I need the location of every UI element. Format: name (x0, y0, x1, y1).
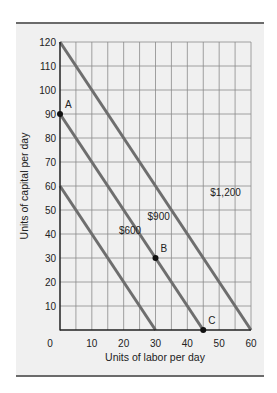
y-tick-label: 50 (45, 205, 57, 216)
x-axis-label: Units of labor per day (105, 351, 206, 363)
point-label: C (208, 315, 215, 326)
y-tick-label: 40 (45, 229, 57, 240)
point-label: A (65, 99, 72, 110)
y-tick-label: 110 (40, 61, 56, 72)
x-tick-label: 40 (182, 338, 194, 349)
line-label: $600 (119, 225, 142, 236)
y-tick-label: 30 (45, 253, 57, 264)
x-tick-label: 60 (245, 338, 257, 349)
y-tick-label: 120 (39, 37, 56, 48)
budget-line (60, 114, 203, 330)
point-marker (153, 255, 159, 261)
budget-line-chart: 0102030405060102030405060708090100110120… (0, 0, 277, 393)
point-marker (200, 327, 206, 333)
y-axis-label: Units of capital per day (18, 132, 30, 240)
tick-labels: 0102030405060102030405060708090100110120… (39, 37, 257, 350)
y-tick-label: 10 (45, 301, 57, 312)
y-tick-label: 60 (45, 181, 57, 192)
line-label: $1,200 (210, 187, 241, 198)
y-tick-label: 70 (45, 157, 57, 168)
line-label: $900 (148, 211, 171, 222)
x-tick-label: 50 (214, 338, 226, 349)
y-tick-label: 20 (45, 277, 57, 288)
x-tick-label: 10 (86, 338, 98, 349)
point-marker (57, 111, 63, 117)
y-tick-label: 90 (45, 109, 57, 120)
x-tick-label: 20 (118, 338, 130, 349)
point-label: B (161, 243, 168, 254)
x-tick-label: 30 (150, 338, 162, 349)
y-tick-label: 100 (39, 85, 56, 96)
y-tick-label: 80 (45, 133, 57, 144)
x-tick-label: 0 (47, 338, 53, 349)
